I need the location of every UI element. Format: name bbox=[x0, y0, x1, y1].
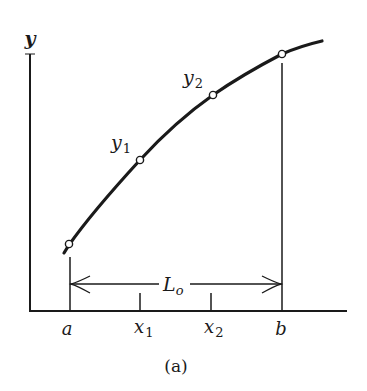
point-b-marker bbox=[278, 50, 285, 57]
y-axis-label: y bbox=[23, 27, 37, 49]
point-y2-marker bbox=[209, 91, 216, 98]
point-label-y1: y1 bbox=[110, 131, 131, 156]
x-tick-label-b: b bbox=[275, 318, 287, 339]
x-tick-label-x2: x2 bbox=[204, 316, 223, 340]
point-label-y2: y2 bbox=[182, 66, 203, 91]
point-a-marker bbox=[65, 240, 72, 247]
x-tick-label-x1: x1 bbox=[134, 316, 153, 340]
point-y1-marker bbox=[136, 156, 143, 163]
x-tick-label-a: a bbox=[62, 318, 73, 339]
diagram-figure: y y1 y2 Lo a x1 x2 b (a) bbox=[0, 0, 367, 391]
figure-caption: (a) bbox=[164, 356, 187, 376]
span-label-lo: Lo bbox=[162, 273, 184, 298]
